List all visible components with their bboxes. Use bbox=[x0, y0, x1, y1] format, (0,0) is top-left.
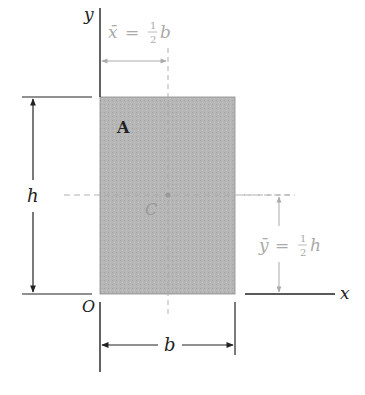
origin-label: O bbox=[82, 297, 95, 316]
xbar-lhs: x̄ bbox=[108, 22, 118, 42]
centroid-label: C bbox=[145, 200, 157, 219]
ybar-lhs: ȳ bbox=[258, 235, 269, 255]
centroid-diagram: y x O A C h b x̄ = 1 2 b ȳ = 1 2 h bbox=[0, 0, 365, 395]
ybar-formula: ȳ = 1 2 h bbox=[258, 233, 321, 258]
ybar-var: h bbox=[310, 235, 321, 255]
ybar-num: 1 bbox=[300, 233, 306, 244]
height-label: h bbox=[27, 185, 39, 206]
xbar-var: b bbox=[160, 22, 171, 42]
xbar-num: 1 bbox=[150, 20, 156, 31]
width-label: b bbox=[164, 334, 176, 355]
xbar-den: 2 bbox=[150, 34, 156, 45]
centroid-point bbox=[166, 193, 171, 198]
area-label: A bbox=[116, 118, 130, 137]
ybar-den: 2 bbox=[300, 247, 306, 258]
x-axis-label: x bbox=[340, 283, 350, 303]
ybar-eq: = bbox=[275, 235, 289, 255]
y-axis-label: y bbox=[83, 4, 94, 24]
xbar-formula: x̄ = 1 2 b bbox=[108, 20, 171, 45]
xbar-eq: = bbox=[125, 22, 139, 42]
